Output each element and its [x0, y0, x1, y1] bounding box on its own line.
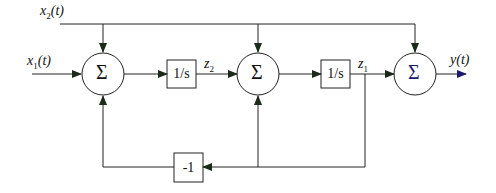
- integrator-2-block: 1/s: [321, 60, 350, 88]
- block-diagram: Σ Σ Σ 1/s 1/s -1 x2(t) x1(t) z2 z1 y(t): [0, 0, 496, 193]
- input-x1-label: x1(t): [27, 53, 51, 71]
- gain-block: -1: [174, 153, 203, 182]
- gain-label: -1: [183, 160, 195, 176]
- summer-2-symbol: Σ: [251, 61, 263, 84]
- output-y-label: y(t): [450, 52, 469, 68]
- integrator-1-label: 1/s: [173, 66, 189, 82]
- diagram-lines: [0, 0, 496, 193]
- summer-1-symbol: Σ: [96, 61, 108, 84]
- input-x2-label: x2(t): [40, 3, 64, 21]
- state-z2-label: z2: [204, 56, 214, 74]
- summer-3-symbol: Σ: [408, 61, 420, 84]
- integrator-1-block: 1/s: [167, 60, 196, 88]
- state-z1-label: z1: [358, 56, 368, 74]
- integrator-2-label: 1/s: [327, 66, 343, 82]
